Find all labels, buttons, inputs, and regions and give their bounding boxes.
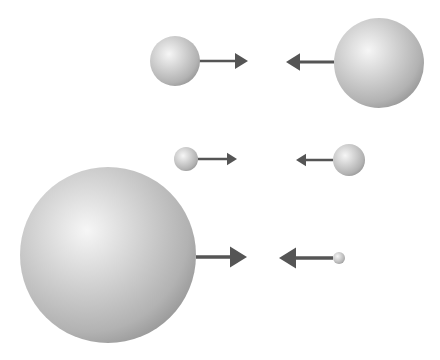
bottom-pair xyxy=(20,167,345,343)
force-diagram xyxy=(0,0,440,360)
sphere-left xyxy=(174,147,198,171)
sphere-left xyxy=(20,167,196,343)
arrowhead-icon xyxy=(279,247,296,268)
arrow-left xyxy=(279,247,333,268)
arrowhead-icon xyxy=(230,246,247,267)
arrowhead-icon xyxy=(286,53,300,70)
arrowhead-icon xyxy=(227,153,237,165)
diagram-root xyxy=(20,18,424,343)
arrowhead-icon xyxy=(296,154,306,166)
arrowhead-icon xyxy=(235,53,248,69)
arrow-left xyxy=(286,53,334,70)
arrow-right xyxy=(199,53,248,69)
top-pair xyxy=(150,18,424,108)
sphere-right xyxy=(334,18,424,108)
sphere-left xyxy=(150,36,200,86)
arrow-left xyxy=(296,154,333,166)
sphere-right xyxy=(333,252,345,264)
arrow-right xyxy=(196,246,247,267)
sphere-right xyxy=(333,144,365,176)
arrow-right xyxy=(198,153,237,165)
middle-pair xyxy=(174,144,365,176)
